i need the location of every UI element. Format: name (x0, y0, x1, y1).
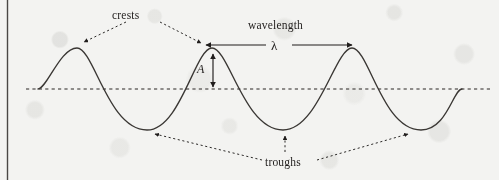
troughs-leader-left (155, 134, 262, 160)
crests-label: crests (112, 10, 139, 22)
wavelength-label: wavelength (248, 20, 303, 32)
wave-diagram-figure: crests wavelength λ A troughs (0, 0, 499, 180)
lambda-symbol-label: λ (271, 39, 277, 52)
crests-leader-right (160, 22, 201, 43)
crests-leader-left (84, 22, 126, 42)
troughs-leader-right (317, 134, 408, 160)
troughs-label: troughs (265, 157, 301, 169)
amplitude-label: A (197, 63, 204, 75)
